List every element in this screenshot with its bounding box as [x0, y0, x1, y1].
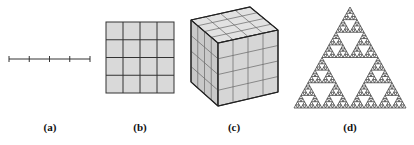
- panel-label-d: (d): [343, 121, 356, 133]
- panel-label-c: (c): [228, 121, 240, 133]
- square-grid-diagram: [106, 22, 174, 93]
- sierpinski-triangle-diagram: [294, 7, 406, 108]
- panel-label-b: (b): [133, 121, 146, 133]
- panel-label-a: (a): [44, 121, 57, 133]
- segment-line-diagram: [9, 56, 90, 62]
- cube-grid-diagram: [191, 7, 278, 106]
